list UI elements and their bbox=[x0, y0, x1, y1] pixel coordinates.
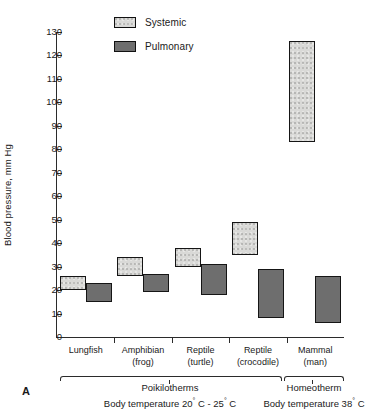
bar-pulmonary-amphibian-frog bbox=[143, 274, 169, 293]
x-axis-separator-3 bbox=[229, 337, 230, 343]
bar-pulmonary-reptile-turtle bbox=[201, 264, 227, 295]
bar-pulmonary-mammal-man bbox=[315, 276, 341, 323]
bar-pulmonary-lungfish bbox=[86, 283, 112, 302]
group-subtitle-homeotherm: Body temperature 38° C bbox=[244, 395, 369, 410]
bar-systemic-reptile-turtle bbox=[175, 248, 201, 267]
group-title-homeotherm: Homeotherm bbox=[244, 382, 369, 395]
bar-systemic-reptile-crocodile bbox=[232, 222, 258, 255]
bracket-homeotherm bbox=[284, 376, 344, 381]
group-label-homeotherm: Homeotherm Body temperature 38° C bbox=[244, 382, 369, 410]
bar-systemic-amphibian-frog bbox=[117, 257, 143, 276]
legend-swatch-systemic bbox=[114, 17, 136, 28]
x-axis-separator-4 bbox=[287, 337, 288, 343]
y-tick-label-wrap-130: 130 bbox=[24, 27, 62, 28]
x-axis-separator-2 bbox=[172, 337, 173, 343]
x-axis-line bbox=[56, 337, 344, 338]
category-label-mammal-man: Mammal(man) bbox=[279, 345, 352, 368]
bracket-poikilotherms bbox=[60, 376, 282, 381]
category-label-line-2: (man) bbox=[279, 357, 352, 369]
bar-systemic-mammal-man bbox=[289, 41, 315, 142]
legend-item-systemic: Systemic bbox=[114, 14, 194, 30]
y-axis-title: Blood pressure, mm Hg bbox=[2, 130, 13, 260]
bar-pulmonary-reptile-crocodile bbox=[258, 269, 284, 318]
legend-label-systemic: Systemic bbox=[145, 17, 186, 28]
x-axis-separator-1 bbox=[114, 337, 115, 343]
panel-letter: A bbox=[22, 385, 30, 397]
bar-systemic-lungfish bbox=[60, 276, 86, 290]
category-label-line-1: Mammal bbox=[279, 345, 352, 357]
plot-area bbox=[57, 32, 344, 337]
